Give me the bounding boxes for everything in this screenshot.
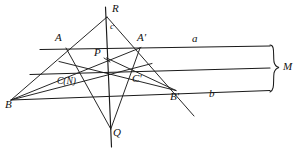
point-label-P: P — [94, 47, 101, 58]
line-a — [40, 46, 270, 50]
point-label-C-N: C(N) — [57, 77, 76, 87]
line-label-b: b — [209, 88, 215, 99]
brace-path — [270, 45, 279, 92]
point-label-C-prime: C' — [132, 73, 142, 84]
line-middle — [30, 68, 270, 75]
point-label-B-prime: B' — [170, 91, 179, 102]
point-label-R: R — [112, 3, 119, 14]
point-label-Q: Q — [113, 127, 121, 138]
segment-Aprime-Q — [111, 48, 140, 129]
line-label-c: c — [110, 22, 114, 31]
line-b — [11, 91, 270, 101]
geometry-figure: R A A' P C(N) C' B B' Q a b c M — [0, 0, 304, 153]
point-label-A-prime: A' — [137, 32, 146, 43]
figure-canvas — [0, 0, 304, 153]
segment-R-Bprime-extended — [107, 17, 194, 116]
line-label-a: a — [192, 33, 198, 44]
pencil-label-M: M — [283, 61, 292, 72]
point-label-B: B — [5, 99, 12, 110]
segment-A-Q — [66, 48, 111, 129]
point-label-A: A — [55, 32, 62, 43]
segment-B-Aprime — [11, 48, 141, 101]
brace-M — [270, 45, 279, 92]
